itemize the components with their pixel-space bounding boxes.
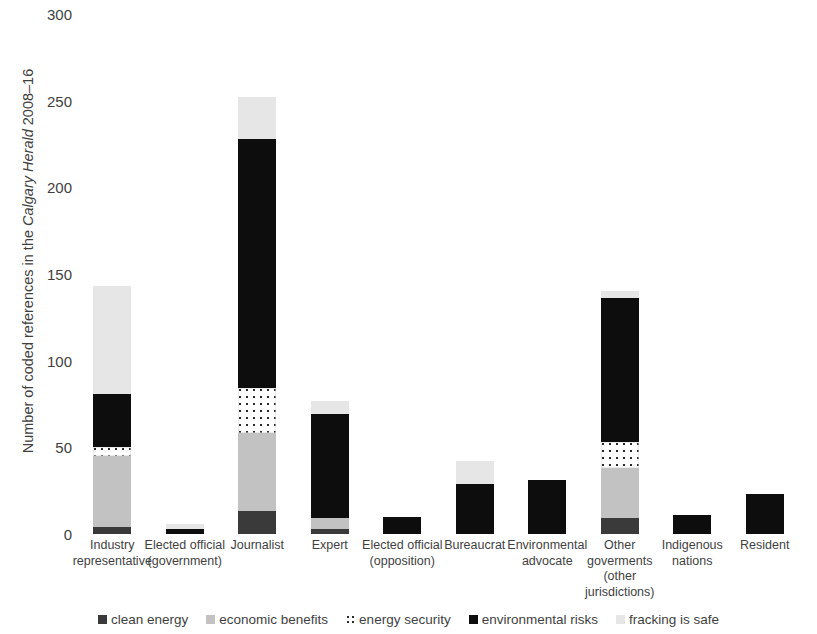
legend-label: environmental risks xyxy=(482,612,598,627)
bar-industry-representative[interactable] xyxy=(93,286,131,534)
y-axis-tick-100: 100 xyxy=(30,354,72,369)
bar-segment-fracking-is-safe xyxy=(456,461,494,484)
bar-segment-environmental-risks xyxy=(238,139,276,389)
bar-segment-environmental-risks xyxy=(456,484,494,534)
bar-segment-economic-benefits xyxy=(311,518,349,528)
stacked-bar-chart: Number of coded references in the Calgar… xyxy=(0,0,817,634)
bar-slot xyxy=(149,14,222,534)
bar-segment-fracking-is-safe xyxy=(93,286,131,393)
y-axis-tick-0: 0 xyxy=(30,527,72,542)
legend-item-clean-energy[interactable]: clean energy xyxy=(98,612,188,627)
x-axis-label-line: (other xyxy=(578,569,663,585)
legend-swatch-icon xyxy=(98,615,107,624)
x-axis-label-line: Resident xyxy=(723,538,808,554)
bar-segment-energy-security xyxy=(93,447,131,456)
bar-segment-environmental-risks xyxy=(93,394,131,448)
bar-segment-environmental-risks xyxy=(601,298,639,442)
bar-expert[interactable] xyxy=(311,401,349,534)
bar-bureaucrat[interactable] xyxy=(456,461,494,534)
x-axis-label-line: jurisdictions) xyxy=(578,585,663,601)
bar-segment-energy-security xyxy=(601,442,639,468)
bar-segment-clean-energy xyxy=(601,518,639,534)
x-axis-tick-labels: IndustryrepresentativeElected official(g… xyxy=(76,538,801,608)
bar-segment-fracking-is-safe xyxy=(311,401,349,415)
bar-segment-environmental-risks xyxy=(166,529,204,534)
chart-legend: clean energyeconomic benefitsenergy secu… xyxy=(0,612,817,627)
bar-other-goverments-other-jurisdictions[interactable] xyxy=(601,291,639,534)
bar-segment-energy-security xyxy=(238,388,276,433)
bar-segment-economic-benefits xyxy=(238,433,276,511)
bar-segment-environmental-risks xyxy=(746,494,784,534)
bar-slot xyxy=(511,14,584,534)
legend-swatch-icon xyxy=(616,615,625,624)
bar-segment-fracking-is-safe xyxy=(601,291,639,298)
y-axis-tick-labels: 050100150200250300 xyxy=(20,0,72,560)
legend-label: energy security xyxy=(359,612,451,627)
y-axis-tick-300: 300 xyxy=(30,7,72,22)
bar-slot xyxy=(221,14,294,534)
legend-label: clean energy xyxy=(111,612,188,627)
bar-environmental-advocate[interactable] xyxy=(528,480,566,534)
bar-segment-environmental-risks xyxy=(673,515,711,534)
x-axis-label-line: (opposition) xyxy=(360,554,445,570)
bar-segment-environmental-risks xyxy=(528,480,566,534)
bar-elected-official-opposition[interactable] xyxy=(383,517,421,534)
bar-journalist[interactable] xyxy=(238,97,276,534)
x-axis-label-line: (government) xyxy=(143,554,228,570)
legend-label: fracking is safe xyxy=(629,612,719,627)
bar-segment-fracking-is-safe xyxy=(238,97,276,139)
bar-resident[interactable] xyxy=(746,494,784,534)
legend-swatch-icon xyxy=(206,615,215,624)
legend-label: economic benefits xyxy=(219,612,328,627)
bar-segment-economic-benefits xyxy=(601,468,639,518)
bar-segment-clean-energy xyxy=(238,511,276,534)
bar-slot xyxy=(729,14,802,534)
y-axis-tick-150: 150 xyxy=(30,267,72,282)
y-axis-tick-200: 200 xyxy=(30,180,72,195)
legend-item-environmental-risks[interactable]: environmental risks xyxy=(469,612,598,627)
x-axis-label-line: nations xyxy=(650,554,735,570)
bar-indigenous-nations[interactable] xyxy=(673,515,711,534)
y-axis-tick-250: 250 xyxy=(30,94,72,109)
plot-area xyxy=(76,14,801,534)
bar-elected-official-government[interactable] xyxy=(166,524,204,534)
bar-segment-environmental-risks xyxy=(311,414,349,518)
bar-slot xyxy=(584,14,657,534)
bar-segment-economic-benefits xyxy=(93,456,131,527)
legend-item-energy-security[interactable]: energy security xyxy=(346,612,451,627)
x-axis-label-9: Resident xyxy=(723,538,808,554)
bar-slot xyxy=(366,14,439,534)
legend-swatch-icon xyxy=(346,615,355,624)
bar-slot xyxy=(656,14,729,534)
legend-item-economic-benefits[interactable]: economic benefits xyxy=(206,612,328,627)
bar-segment-clean-energy xyxy=(311,529,349,534)
bar-slot xyxy=(76,14,149,534)
bar-slot xyxy=(294,14,367,534)
legend-swatch-icon xyxy=(469,615,478,624)
bar-segment-clean-energy xyxy=(93,527,131,534)
legend-item-fracking-is-safe[interactable]: fracking is safe xyxy=(616,612,719,627)
bar-segment-environmental-risks xyxy=(383,517,421,534)
y-axis-tick-50: 50 xyxy=(30,440,72,455)
bar-slot xyxy=(439,14,512,534)
